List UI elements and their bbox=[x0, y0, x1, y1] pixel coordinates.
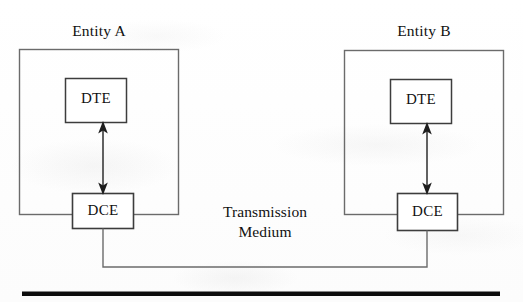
transmission-medium-label-line1: Transmission bbox=[190, 203, 340, 220]
dce-a-label: DCE bbox=[72, 202, 134, 219]
diagram-vector-layer bbox=[0, 0, 523, 302]
entity-b-title: Entity B bbox=[344, 22, 504, 39]
dte-b-label: DTE bbox=[390, 91, 452, 108]
dte-b-dce-b-double-arrow bbox=[422, 122, 432, 195]
entity-a-title: Entity A bbox=[19, 22, 179, 39]
dte-a-label: DTE bbox=[65, 90, 127, 107]
figure-canvas: Entity A Entity B DTE DCE DTE DCE Transm… bbox=[0, 0, 523, 302]
dte-a-dce-a-double-arrow bbox=[98, 121, 108, 195]
dce-b-label: DCE bbox=[397, 203, 458, 220]
bottom-rule bbox=[22, 292, 500, 297]
transmission-medium-label-line2: Medium bbox=[190, 223, 340, 240]
